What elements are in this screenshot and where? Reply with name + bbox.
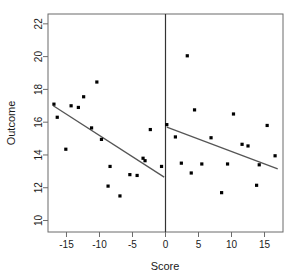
data-point <box>95 80 98 83</box>
data-point <box>258 163 261 166</box>
data-point <box>118 194 121 197</box>
x-tick-label: 0 <box>163 239 169 250</box>
data-point <box>174 135 177 138</box>
y-tick-label: 14 <box>33 149 44 161</box>
data-point <box>165 123 168 126</box>
data-point <box>136 174 139 177</box>
data-point <box>266 124 269 127</box>
scatter-plot: 10121416182022 -15-10-5051015 Score Outc… <box>0 0 293 277</box>
data-points-left <box>52 80 163 197</box>
data-point <box>200 162 203 165</box>
data-point <box>160 165 163 168</box>
data-point <box>273 154 276 157</box>
data-point <box>232 112 235 115</box>
data-point <box>255 184 258 187</box>
y-tick-label: 22 <box>33 18 44 30</box>
x-axis-ticks: -15-10-5051015 <box>59 232 270 250</box>
data-point <box>246 144 249 147</box>
data-point <box>106 185 109 188</box>
data-point <box>209 136 212 139</box>
chart-figure: 10121416182022 -15-10-5051015 Score Outc… <box>0 0 293 277</box>
x-tick-label: -5 <box>128 239 137 250</box>
data-point <box>70 104 73 107</box>
data-point <box>190 171 193 174</box>
x-axis-title: Score <box>151 260 180 272</box>
data-point <box>77 106 80 109</box>
data-point <box>82 95 85 98</box>
data-point <box>108 165 111 168</box>
data-point <box>193 108 196 111</box>
data-point <box>100 138 103 141</box>
data-point <box>64 148 67 151</box>
y-tick-label: 20 <box>33 51 44 63</box>
right-fit-line <box>167 127 278 169</box>
data-point <box>226 162 229 165</box>
data-point <box>180 162 183 165</box>
data-point <box>240 143 243 146</box>
x-tick-label: 15 <box>259 239 271 250</box>
y-axis-title: Outcome <box>5 101 17 146</box>
x-tick-label: -15 <box>59 239 74 250</box>
y-tick-label: 10 <box>33 215 44 227</box>
data-point <box>56 116 59 119</box>
data-point <box>220 191 223 194</box>
data-point <box>90 126 93 129</box>
x-tick-label: 10 <box>226 239 238 250</box>
y-tick-label: 18 <box>33 83 44 95</box>
data-point <box>143 159 146 162</box>
data-points-right <box>165 54 276 194</box>
x-tick-label: -10 <box>92 239 107 250</box>
data-point <box>149 128 152 131</box>
y-axis-ticks: 10121416182022 <box>33 18 48 226</box>
y-tick-label: 12 <box>33 182 44 194</box>
data-point <box>128 173 131 176</box>
data-point <box>52 103 55 106</box>
y-tick-label: 16 <box>33 116 44 128</box>
data-point <box>186 54 189 57</box>
x-tick-label: 5 <box>196 239 202 250</box>
